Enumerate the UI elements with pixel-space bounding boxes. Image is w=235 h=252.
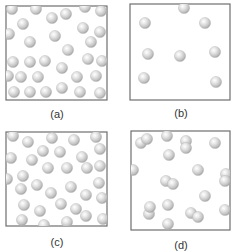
atom-sphere [56,82,67,93]
atom-sphere [81,162,92,173]
atom-sphere [42,162,53,173]
atom-sphere [8,86,19,97]
atom-sphere [178,2,189,13]
atom-sphere [18,199,29,210]
atom-sphere [2,70,13,81]
atom-sphere [90,131,101,142]
panel-c: (c) [1,130,108,248]
atom-sphere [37,145,48,156]
atom-sphere [30,3,41,14]
atom-sphere [17,18,28,29]
atom-sphere [85,36,96,47]
particle-diagram: (a) (b) (c) (d) [0,0,235,252]
atom-sphere [5,152,16,163]
atom-sphere [192,211,203,222]
atom-sphere [94,26,105,37]
atom-sphere [24,56,35,67]
panel-d-label: (d) [174,239,187,251]
atom-sphere [24,36,35,47]
atom-sphere [96,55,107,66]
atom-sphere [32,71,43,82]
atom-sphere [17,170,28,181]
diatomic-molecule [143,201,155,219]
atom-sphere [174,50,185,61]
atom-sphere [65,181,76,192]
atom-sphere [199,17,210,28]
panel-b: (b) [130,2,230,119]
atom-sphere [22,136,33,147]
atom-sphere [79,1,90,12]
atom-sphere [167,178,178,189]
atom-sphere [62,44,73,55]
atom-sphere [15,71,26,82]
panel-d: (d) [127,130,231,251]
atom-sphere [1,173,12,184]
atom-sphere [192,164,203,175]
atom-sphere [7,130,18,141]
panel-a-label: (a) [50,108,63,120]
atom-sphere [219,204,230,215]
atom-sphere [96,192,107,203]
atom-sphere [61,162,72,173]
atom-sphere [68,134,79,145]
atom-sphere [54,146,65,157]
atom-sphere [80,210,91,221]
atom-sphere [209,46,220,57]
atom-sphere [94,87,105,98]
atom-sphere [144,201,155,212]
atom-sphere [26,154,37,165]
atom-sphere [55,198,66,209]
atom-sphere [199,190,210,201]
atom-sphere [162,218,173,229]
panel-a: (a) [2,1,107,120]
atom-sphere [94,143,105,154]
atom-sphere [93,177,104,188]
atom-sphere [49,30,60,41]
atom-sphere [15,183,26,194]
atom-sphere [82,53,93,64]
atom-sphere [56,62,67,73]
atom-sphere [162,199,173,210]
atom-sphere [16,214,27,225]
atom-sphere [219,175,230,186]
panel-c-label: (c) [51,236,64,248]
atom-sphere [210,76,221,87]
atom-sphere [31,179,42,190]
atom-sphere [60,8,71,19]
atom-sphere [94,160,105,171]
atom-sphere [39,55,50,66]
atom-sphere [74,86,85,97]
diatomic-molecule [219,168,231,186]
atom-sphere [6,3,17,14]
atom-sphere [76,151,87,162]
diatomic-molecule [180,135,191,153]
atom-sphere [40,86,51,97]
atom-sphere [127,164,138,175]
atom-sphere [90,70,101,81]
atom-sphere [163,149,174,160]
atom-sphere [141,133,152,144]
atom-sphere [209,137,220,148]
atom-sphere [46,12,57,23]
atom-sphere [3,28,14,39]
atom-sphere [161,130,172,141]
atom-sphere [97,213,108,224]
atom-sphere [77,22,88,33]
atom-sphere [7,56,18,67]
atom-sphere [142,48,153,59]
atom-sphere [139,17,150,28]
atom-sphere [38,219,49,230]
atom-sphere [45,187,56,198]
atom-sphere [46,132,57,143]
atom-sphere [138,72,149,83]
atom-sphere [71,71,82,82]
atom-sphere [70,203,81,214]
panel-b-label: (b) [174,107,187,119]
atom-sphere [180,142,191,153]
atom-sphere [80,189,91,200]
atom-sphere [24,86,35,97]
atom-sphere [61,216,72,227]
atom-sphere [34,205,45,216]
atom-sphere [95,5,106,16]
